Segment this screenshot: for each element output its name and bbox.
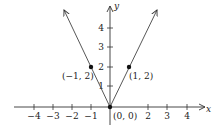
svg-text:−2: −2 (65, 111, 78, 121)
point-neg1-2 (89, 65, 93, 69)
svg-text:3: 3 (98, 42, 104, 52)
right-branch (110, 10, 157, 107)
svg-text:−1: −1 (84, 111, 97, 121)
point-label-1-2: (1, 2) (129, 71, 153, 81)
graph: x y −4 −3 −2 −1 2 3 4 1 2 3 4 (−1, 2) ( (0, 0, 222, 129)
point-label-origin: (0, 0) (113, 111, 137, 121)
x-tick-labels: −4 −3 −2 −1 2 3 4 (27, 111, 190, 121)
x-axis-label: x (206, 104, 211, 114)
y-axis-label: y (113, 1, 120, 11)
svg-text:−4: −4 (27, 111, 41, 121)
point-1-2 (127, 65, 131, 69)
point-label-neg1-2: (−1, 2) (62, 71, 94, 81)
svg-text:−3: −3 (46, 111, 60, 121)
svg-text:2: 2 (98, 62, 104, 72)
svg-text:3: 3 (164, 111, 170, 121)
svg-text:4: 4 (98, 23, 104, 33)
y-tick-labels: 1 2 3 4 (98, 23, 104, 91)
svg-text:4: 4 (184, 111, 190, 121)
point-origin (108, 105, 112, 109)
svg-text:1: 1 (98, 81, 104, 91)
svg-text:2: 2 (145, 111, 151, 121)
